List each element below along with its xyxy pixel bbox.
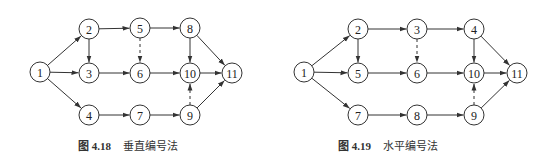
network-diagrams-canvas: 1234567810911 1257368410911 — [0, 0, 554, 159]
event-node-10: 10 — [180, 63, 200, 83]
event-node-6: 6 — [407, 63, 427, 83]
activity-arrow-2-5 — [99, 28, 130, 29]
node-label: 1 — [37, 66, 43, 80]
figure-title: 垂直编号法 — [123, 140, 178, 153]
event-node-11: 11 — [507, 63, 527, 83]
node-label: 6 — [414, 67, 420, 81]
event-node-4: 4 — [79, 105, 99, 125]
node-label: 6 — [137, 67, 143, 81]
node-label: 10 — [468, 67, 480, 81]
node-label: 5 — [355, 67, 361, 81]
node-label: 9 — [471, 109, 477, 123]
node-label: 8 — [187, 22, 193, 36]
node-label: 3 — [86, 67, 92, 81]
activity-arrow-8-11 — [197, 35, 225, 65]
event-node-3: 3 — [79, 63, 99, 83]
node-label: 1 — [301, 66, 307, 80]
event-node-7: 7 — [348, 105, 368, 125]
node-label: 2 — [86, 23, 92, 37]
activity-arrow-4-11 — [481, 36, 510, 65]
activity-arrow-9-11 — [481, 80, 509, 108]
node-label: 7 — [355, 109, 361, 123]
figure-title: 水平编号法 — [383, 140, 438, 153]
event-node-7: 7 — [130, 105, 150, 125]
event-node-8: 8 — [407, 105, 427, 125]
activity-arrow-9-11 — [197, 80, 225, 108]
event-node-4: 4 — [464, 19, 484, 39]
activity-arrow-1-4 — [48, 79, 82, 108]
node-label: 2 — [355, 23, 361, 37]
figure-caption-4-19: 图 4.19水平编号法 — [338, 137, 438, 153]
event-node-5: 5 — [348, 63, 368, 83]
event-node-11: 11 — [222, 63, 242, 83]
event-node-10: 10 — [464, 63, 484, 83]
activity-arrow-1-5 — [314, 72, 348, 73]
activity-arrow-1-2 — [312, 36, 350, 66]
event-node-1: 1 — [30, 62, 50, 82]
event-node-3: 3 — [407, 19, 427, 39]
figure-label: 图 4.19 — [338, 140, 371, 152]
event-node-6: 6 — [130, 63, 150, 83]
event-node-8: 8 — [180, 18, 200, 38]
node-label: 5 — [137, 22, 143, 36]
node-label: 4 — [86, 109, 92, 123]
node-label: 4 — [471, 23, 477, 37]
figure-label: 图 4.18 — [78, 140, 111, 152]
node-label: 8 — [414, 109, 420, 123]
vertical-numbering-network-diagram: 1234567810911 — [30, 18, 242, 125]
event-node-9: 9 — [180, 105, 200, 125]
figure-caption-4-18: 图 4.18垂直编号法 — [78, 137, 178, 153]
node-label: 9 — [187, 109, 193, 123]
event-node-2: 2 — [348, 19, 368, 39]
activity-arrow-1-3 — [50, 72, 79, 73]
node-label: 11 — [511, 67, 523, 81]
node-label: 10 — [184, 67, 196, 81]
node-label: 11 — [226, 67, 238, 81]
event-node-2: 2 — [79, 19, 99, 39]
activity-arrow-1-7 — [312, 78, 350, 108]
event-node-1: 1 — [294, 62, 314, 82]
event-node-9: 9 — [464, 105, 484, 125]
activity-arrow-1-2 — [48, 36, 82, 65]
node-label: 7 — [137, 109, 143, 123]
node-label: 3 — [414, 23, 420, 37]
event-node-5: 5 — [130, 18, 150, 38]
horizontal-numbering-network-diagram: 1257368410911 — [294, 19, 527, 125]
